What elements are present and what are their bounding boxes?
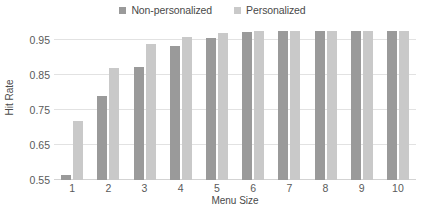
- bar-non-personalized: [170, 46, 180, 180]
- bar-group: [271, 26, 307, 180]
- bar-personalized: [146, 44, 156, 180]
- bar-non-personalized: [206, 38, 216, 180]
- bar-non-personalized: [315, 31, 325, 180]
- y-tick-label: 0.65: [30, 139, 50, 151]
- y-tick-label: 0.75: [30, 104, 50, 116]
- bar-personalized: [290, 31, 300, 180]
- bar-group: [380, 26, 416, 180]
- bar-chart: Non-personalized Personalized Hit Rate 0…: [0, 0, 425, 213]
- bar-non-personalized: [97, 96, 107, 180]
- plot-area: [54, 26, 416, 180]
- x-tick-label: 4: [163, 182, 199, 194]
- bar-non-personalized: [351, 31, 361, 180]
- bar-non-personalized: [242, 32, 252, 180]
- bar-group: [344, 26, 380, 180]
- bar-personalized: [109, 68, 119, 180]
- x-axis-tick-labels: 12345678910: [54, 182, 416, 194]
- x-tick-label: 3: [126, 182, 162, 194]
- x-tick-label: 7: [271, 182, 307, 194]
- bar-non-personalized: [387, 31, 397, 180]
- x-axis-title: Menu Size: [54, 195, 416, 206]
- x-tick-label: 5: [199, 182, 235, 194]
- bar-group: [307, 26, 343, 180]
- y-tick-label: 0.95: [30, 34, 50, 46]
- bar-personalized: [363, 31, 373, 180]
- x-tick-label: 9: [344, 182, 380, 194]
- bar-group: [54, 26, 90, 180]
- x-tick-label: 8: [307, 182, 343, 194]
- bar-groups: [54, 26, 416, 180]
- x-tick-label: 1: [54, 182, 90, 194]
- bar-group: [163, 26, 199, 180]
- bar-non-personalized: [134, 67, 144, 180]
- x-tick-label: 10: [380, 182, 416, 194]
- y-axis-tick-labels: 0.550.650.750.850.95: [20, 0, 50, 213]
- bar-personalized: [182, 37, 192, 180]
- bar-group: [235, 26, 271, 180]
- x-tick-label: 6: [235, 182, 271, 194]
- bar-personalized: [254, 31, 264, 180]
- bar-group: [90, 26, 126, 180]
- bar-personalized: [218, 33, 228, 180]
- y-tick-label: 0.85: [30, 69, 50, 81]
- y-tick-label: 0.55: [30, 174, 50, 186]
- bar-personalized: [73, 121, 83, 181]
- bar-personalized: [327, 31, 337, 180]
- x-tick-label: 2: [90, 182, 126, 194]
- plot-wrapper: 0.550.650.750.850.95 12345678910 Menu Si…: [0, 0, 425, 213]
- bar-group: [126, 26, 162, 180]
- bar-non-personalized: [61, 175, 71, 180]
- bar-personalized: [399, 31, 409, 180]
- bar-non-personalized: [278, 31, 288, 180]
- bar-group: [199, 26, 235, 180]
